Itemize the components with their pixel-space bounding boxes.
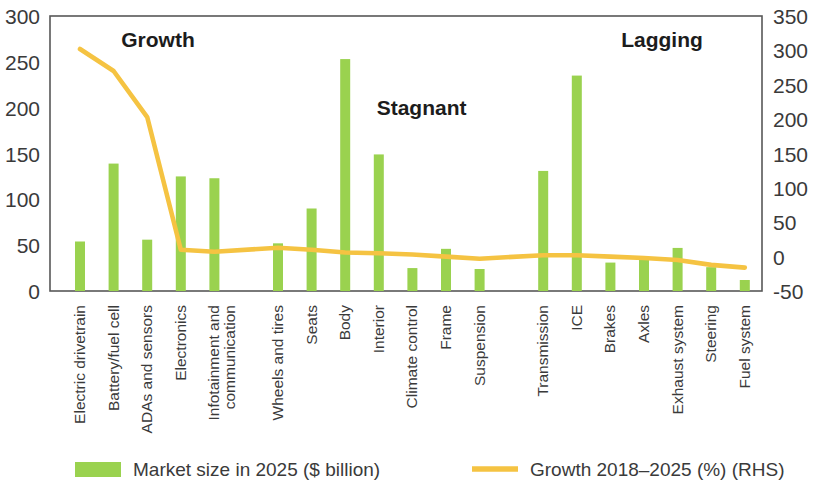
legend-label: Market size in 2025 ($ billion) xyxy=(133,459,380,480)
right-axis: -50050100150200250300350 xyxy=(773,5,808,303)
right-axis-tick-label: 250 xyxy=(773,74,808,97)
left-axis-tick-label: 0 xyxy=(28,280,40,303)
combo-chart: 050100150200250300 -50050100150200250300… xyxy=(0,0,824,492)
category-axis-labels: Electric drivetrainBattery/fuel cellADAs… xyxy=(71,305,753,434)
bar xyxy=(109,164,119,291)
left-axis-tick-label: 200 xyxy=(5,97,40,120)
bar xyxy=(142,240,152,291)
bar xyxy=(209,178,219,291)
right-axis-tick-label: 350 xyxy=(773,5,808,28)
right-axis-tick-label: 300 xyxy=(773,39,808,62)
chart-legend: Market size in 2025 ($ billion)Growth 20… xyxy=(75,459,785,480)
bar xyxy=(273,243,283,291)
category-label: Transmission xyxy=(534,305,551,397)
bar xyxy=(75,242,85,292)
left-axis-tick-label: 250 xyxy=(5,51,40,74)
category-label: Interior xyxy=(370,305,387,353)
right-axis-tick-label: 0 xyxy=(773,246,785,269)
chart-container: 050100150200250300 -50050100150200250300… xyxy=(0,0,824,492)
bar xyxy=(673,248,683,291)
category-label: ADAs and sensors xyxy=(138,305,155,434)
bar xyxy=(572,76,582,291)
category-label: Body xyxy=(336,305,353,341)
category-label: ICE xyxy=(568,305,585,331)
bar xyxy=(706,267,716,291)
left-axis: 050100150200250300 xyxy=(5,5,40,303)
left-axis-tick-label: 150 xyxy=(5,143,40,166)
category-label: Suspension xyxy=(471,305,488,386)
left-axis-tick-label: 50 xyxy=(17,234,40,257)
bar xyxy=(538,171,548,291)
category-label: Electronics xyxy=(172,305,189,381)
category-label: communication xyxy=(221,305,238,409)
bar xyxy=(374,154,384,291)
bar xyxy=(639,257,649,291)
left-axis-tick-label: 300 xyxy=(5,5,40,28)
group-title: Growth xyxy=(121,28,195,51)
category-label: Climate control xyxy=(403,305,420,408)
bar xyxy=(340,59,350,291)
group-title: Lagging xyxy=(621,28,703,51)
right-axis-tick-label: 150 xyxy=(773,143,808,166)
group-title: Stagnant xyxy=(377,96,467,119)
legend-swatch-bar xyxy=(75,462,121,477)
category-label: Brakes xyxy=(601,305,618,353)
category-label: Seats xyxy=(303,305,320,345)
category-label: Fuel system xyxy=(736,305,753,389)
bar xyxy=(475,269,485,291)
right-axis-tick-label: 50 xyxy=(773,211,796,234)
category-label: Exhaust system xyxy=(669,305,686,414)
category-label: Wheels and tires xyxy=(269,305,286,421)
left-axis-tick-label: 100 xyxy=(5,188,40,211)
bar xyxy=(407,268,417,291)
legend-label: Growth 2018–2025 (%) (RHS) xyxy=(530,459,785,480)
category-label: Axles xyxy=(635,305,652,343)
bar xyxy=(740,280,750,291)
category-label: Frame xyxy=(437,305,454,350)
right-axis-tick-label: 100 xyxy=(773,177,808,200)
category-label: Infotainment and xyxy=(205,305,222,420)
right-axis-tick-label: 200 xyxy=(773,108,808,131)
category-label: Electric drivetrain xyxy=(71,305,88,424)
category-label: Battery/fuel cell xyxy=(105,305,122,411)
bar xyxy=(605,263,615,291)
right-axis-tick-label: -50 xyxy=(773,280,803,303)
category-label: Steering xyxy=(702,305,719,363)
group-titles: GrowthStagnantLagging xyxy=(121,28,703,119)
